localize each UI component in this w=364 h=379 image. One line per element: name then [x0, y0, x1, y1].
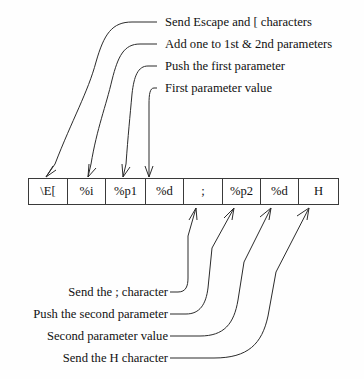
top-annotation-4: First parameter value — [165, 77, 364, 99]
arrowhead-top-2 — [88, 164, 96, 177]
format-string-diagram: Send Escape and [ characters Add one to … — [0, 0, 364, 379]
format-cell-escape-bracket: \E[ — [29, 179, 68, 204]
bottom-annotation-1: Send the ; character — [0, 281, 168, 303]
format-cell-push-param-2: %p2 — [223, 179, 261, 204]
format-string-row: \E[ %i %p1 %d ; %p2 %d H — [28, 178, 339, 205]
format-cell-semicolon: ; — [184, 179, 223, 204]
leader-line-top-1 — [55, 22, 157, 164]
format-cell-letter-h: H — [299, 179, 338, 204]
arrowhead-bottom-4 — [276, 208, 309, 272]
top-annotation-list: Send Escape and [ characters Add one to … — [165, 11, 364, 99]
arrowhead-bottom-3 — [244, 208, 271, 262]
leader-line-top-3 — [126, 66, 157, 164]
bottom-annotation-2: Push the second parameter — [0, 303, 168, 325]
format-cell-push-param-1: %p1 — [106, 179, 146, 204]
leader-line-bottom-2 — [170, 248, 212, 314]
top-annotation-1: Send Escape and [ characters — [165, 11, 364, 33]
leader-line-top-2 — [91, 44, 157, 164]
bottom-annotation-3: Second parameter value — [0, 325, 168, 347]
arrowhead-bottom-1 — [188, 208, 197, 236]
arrowhead-bottom-2 — [212, 208, 234, 248]
bottom-annotation-list: Send the ; character Push the second par… — [0, 281, 168, 369]
arrowhead-top-4 — [145, 164, 153, 177]
format-cell-print-param-2: %d — [261, 179, 299, 204]
leader-line-bottom-1 — [170, 236, 188, 292]
top-annotation-3: Push the first parameter — [165, 55, 364, 77]
top-annotation-2: Add one to 1st & 2nd parameters — [165, 33, 364, 55]
format-cell-print-param-1: %d — [146, 179, 184, 204]
arrowhead-top-3 — [122, 164, 130, 177]
leader-line-top-4 — [149, 88, 157, 164]
leader-line-bottom-4 — [170, 272, 276, 358]
bottom-annotation-4: Send the H character — [0, 347, 168, 369]
arrowhead-top-1 — [46, 164, 56, 177]
format-cell-increment: %i — [68, 179, 106, 204]
leader-line-bottom-3 — [170, 262, 244, 336]
